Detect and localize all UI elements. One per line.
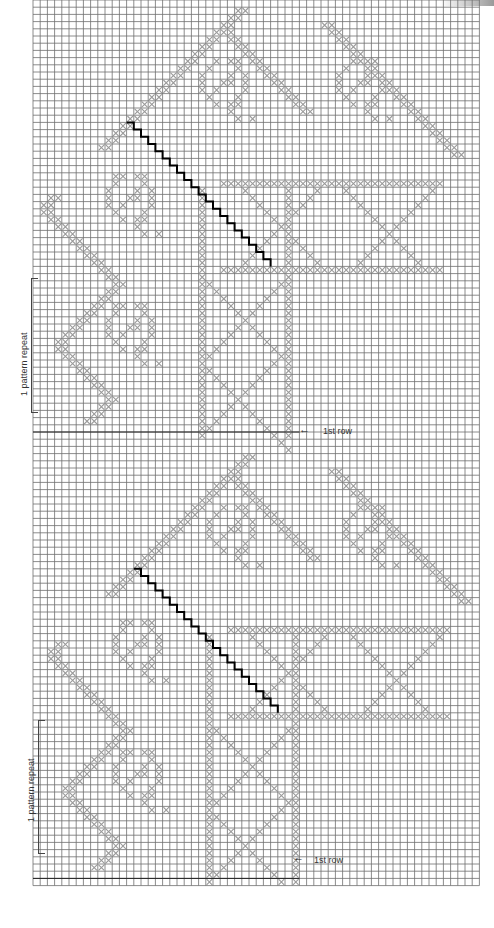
bottom-first-row-arrow-icon: ← bbox=[293, 852, 304, 862]
bottom-repeat-bracket bbox=[38, 720, 45, 854]
crochet-chart-grid bbox=[0, 0, 494, 928]
bottom-repeat-label: 1 pattern repeat bbox=[26, 758, 36, 822]
top-first-row-arrow-icon: ← bbox=[299, 424, 310, 434]
top-repeat-label: 1 pattern repeat bbox=[19, 332, 29, 396]
top-first-row-label: 1st row bbox=[323, 426, 352, 436]
top-repeat-bracket bbox=[31, 278, 38, 413]
bottom-first-row-label: 1st row bbox=[314, 855, 343, 865]
